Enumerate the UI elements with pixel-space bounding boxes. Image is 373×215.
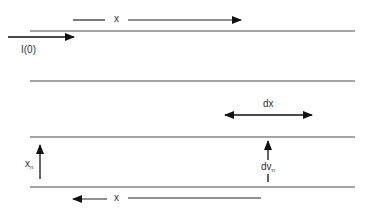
xn-label: xn: [25, 159, 33, 170]
dx-label: dx: [263, 99, 274, 109]
dvn-label: dvn: [261, 162, 275, 173]
top-x-label: x: [114, 14, 119, 24]
bottom-x-label: x: [114, 193, 119, 203]
bottom-x-arrow: [73, 198, 261, 199]
current-label: I(0): [21, 45, 36, 55]
diagram-canvas: [0, 0, 373, 215]
dvn-label-sub: n: [272, 167, 275, 173]
dvn-label-main: dv: [261, 161, 272, 172]
xn-label-sub: n: [30, 164, 33, 170]
